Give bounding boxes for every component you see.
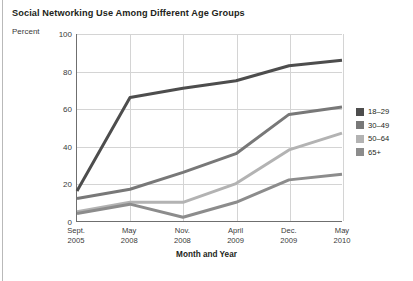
x-tick-month: May [99, 226, 159, 236]
y-axis-tick-label: 60 [32, 105, 72, 114]
series-lines [77, 34, 342, 221]
x-axis-tick-label: Sept.2005 [46, 226, 106, 246]
y-axis-tick-label: 20 [32, 180, 72, 189]
chart-title: Social Networking Use Among Different Ag… [12, 8, 245, 18]
legend-item-label: 30–49 [368, 121, 389, 130]
y-axis-tick-labels: 020406080100 [30, 34, 72, 222]
left-border-rule [2, 0, 3, 281]
x-tick-month: Sept. [46, 226, 106, 236]
legend-item[interactable]: 18–29 [356, 107, 389, 116]
x-tick-year: 2010 [312, 236, 372, 246]
x-axis-tick-label: May2010 [312, 226, 372, 246]
y-axis-tick-label: 100 [32, 30, 72, 39]
x-tick-year: 2008 [152, 236, 212, 246]
x-tick-month: April [206, 226, 266, 236]
y-axis-tick-label: 80 [32, 67, 72, 76]
legend-color-swatch [356, 135, 364, 143]
line-series-65+ [77, 174, 342, 217]
x-axis-tick-label: April2009 [206, 226, 266, 246]
legend-item-label: 65+ [368, 148, 381, 157]
x-tick-month: Nov. [152, 226, 212, 236]
x-tick-month: Dec. [259, 226, 319, 236]
x-axis-tick-label: Dec.2009 [259, 226, 319, 246]
legend-color-swatch [356, 121, 364, 129]
legend: 18–2930–4950–6465+ [356, 107, 389, 157]
x-tick-year: 2009 [206, 236, 266, 246]
legend-item-label: 50–64 [368, 134, 389, 143]
plot-area [76, 34, 342, 222]
x-tick-year: 2005 [46, 236, 106, 246]
x-axis-title: Month and Year [0, 250, 413, 259]
x-tick-year: 2008 [99, 236, 159, 246]
legend-color-swatch [356, 148, 364, 156]
x-tick-year: 2009 [259, 236, 319, 246]
x-axis-tick-label: May2008 [99, 226, 159, 246]
x-tick-month: May [312, 226, 372, 236]
legend-color-swatch [356, 108, 364, 116]
legend-item[interactable]: 50–64 [356, 134, 389, 143]
legend-item-label: 18–29 [368, 107, 389, 116]
legend-item[interactable]: 30–49 [356, 121, 389, 130]
y-axis-tick-label: 40 [32, 142, 72, 151]
line-series-50-64 [77, 133, 342, 212]
x-axis-tick-labels: Sept.2005May2008Nov.2008April2009Dec.200… [76, 226, 342, 252]
x-axis-tick-label: Nov.2008 [152, 226, 212, 246]
gridline-vertical [343, 34, 344, 221]
line-series-18-29 [77, 60, 342, 191]
legend-item[interactable]: 65+ [356, 148, 389, 157]
